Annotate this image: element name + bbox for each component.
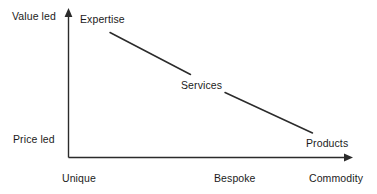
value-axis [65, 8, 73, 158]
node-label-services: Services [181, 79, 222, 91]
x-axis-tick-label-commodity: Commodity [309, 172, 363, 184]
x-axis-tick-label-unique: Unique [62, 172, 96, 184]
y-axis-bottom-label: Price led [13, 133, 55, 145]
x-axis-tick-label-bespoke: Bespoke [214, 172, 256, 184]
node-label-products: Products [306, 137, 348, 149]
positioning-axis-arrowhead-icon [344, 154, 353, 162]
diagram-canvas [0, 0, 377, 194]
node-label-expertise: Expertise [80, 13, 125, 25]
y-axis-top-label: Value led [12, 10, 56, 22]
trend-segment-expertise-to-services [110, 33, 191, 75]
trend-segment-services-to-products [225, 93, 313, 134]
positioning-axis [69, 154, 354, 162]
value-axis-arrowhead-icon [65, 8, 73, 17]
value-ladder-diagram: Value led Price led Expertise Services P… [0, 0, 377, 194]
